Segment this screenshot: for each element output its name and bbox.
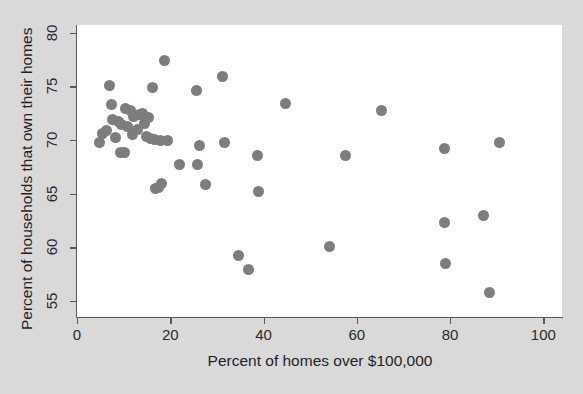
- data-point: [191, 85, 202, 96]
- data-point: [233, 250, 244, 261]
- x-tick-label: 20: [162, 326, 179, 343]
- data-point: [106, 99, 117, 110]
- y-tick-mark: [70, 194, 76, 195]
- y-tick-label: 70: [43, 125, 60, 155]
- data-point: [217, 71, 228, 82]
- data-points-layer: [77, 25, 562, 317]
- x-axis-title: Percent of homes over $100,000: [77, 352, 563, 370]
- x-tick-mark: [264, 318, 265, 324]
- data-point: [162, 135, 173, 146]
- data-point: [104, 80, 115, 91]
- y-tick-label: 60: [43, 232, 60, 262]
- y-tick-label: 55: [43, 286, 60, 316]
- y-tick-mark: [70, 247, 76, 248]
- x-tick-mark: [77, 318, 78, 324]
- data-point: [200, 179, 211, 190]
- data-point: [194, 140, 205, 151]
- x-tick-label: 80: [442, 326, 459, 343]
- x-axis-line: [77, 317, 563, 318]
- data-point: [243, 264, 254, 275]
- data-point: [253, 186, 264, 197]
- data-point: [219, 137, 230, 148]
- x-tick-mark: [543, 318, 544, 324]
- x-tick-label: 40: [255, 326, 272, 343]
- data-point: [494, 137, 505, 148]
- data-point: [478, 210, 489, 221]
- y-tick-mark: [70, 33, 76, 34]
- x-tick-label: 0: [73, 326, 81, 343]
- data-point: [340, 150, 351, 161]
- y-tick-mark: [70, 301, 76, 302]
- data-point: [439, 143, 450, 154]
- data-point: [156, 178, 167, 189]
- data-point: [192, 159, 203, 170]
- data-point: [174, 159, 185, 170]
- data-point: [439, 217, 450, 228]
- x-tick-mark: [450, 318, 451, 324]
- data-point: [143, 112, 154, 123]
- y-tick-label: 80: [43, 18, 60, 48]
- plot-area: [77, 25, 562, 317]
- data-point: [484, 287, 495, 298]
- y-tick-label: 65: [43, 179, 60, 209]
- data-point: [147, 82, 158, 93]
- y-tick-label: 75: [43, 71, 60, 101]
- data-point: [110, 132, 121, 143]
- x-tick-label: 100: [531, 326, 556, 343]
- y-tick-mark: [70, 86, 76, 87]
- data-point: [252, 150, 263, 161]
- x-tick-mark: [357, 318, 358, 324]
- x-tick-label: 60: [348, 326, 365, 343]
- data-point: [324, 241, 335, 252]
- y-axis-title: Percent of households that own their hom…: [18, 30, 36, 330]
- scatter-plot-figure: 020406080100 556065707580 Percent of hom…: [0, 0, 583, 394]
- data-point: [440, 258, 451, 269]
- x-tick-mark: [170, 318, 171, 324]
- data-point: [376, 105, 387, 116]
- data-point: [159, 55, 170, 66]
- y-tick-mark: [70, 140, 76, 141]
- data-point: [119, 147, 130, 158]
- y-axis-line: [76, 25, 77, 318]
- data-point: [280, 98, 291, 109]
